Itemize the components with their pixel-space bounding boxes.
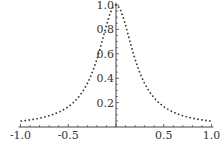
- y-tick-label: 0.4: [97, 72, 115, 85]
- y-tick-label: 0.2: [97, 97, 115, 110]
- x-tick-label: 1.0: [203, 129, 221, 142]
- line-chart: -1.0-0.50.51.00.20.40.60.81.0: [0, 0, 224, 151]
- tick-labels: -1.0-0.50.51.00.20.40.60.81.0: [10, 0, 220, 142]
- axes: [19, 3, 214, 127]
- y-tick-label: 1.0: [97, 0, 115, 12]
- x-tick-label: -1.0: [10, 129, 31, 142]
- x-tick-label: -0.5: [58, 129, 79, 142]
- x-tick-label: 0.5: [155, 129, 173, 142]
